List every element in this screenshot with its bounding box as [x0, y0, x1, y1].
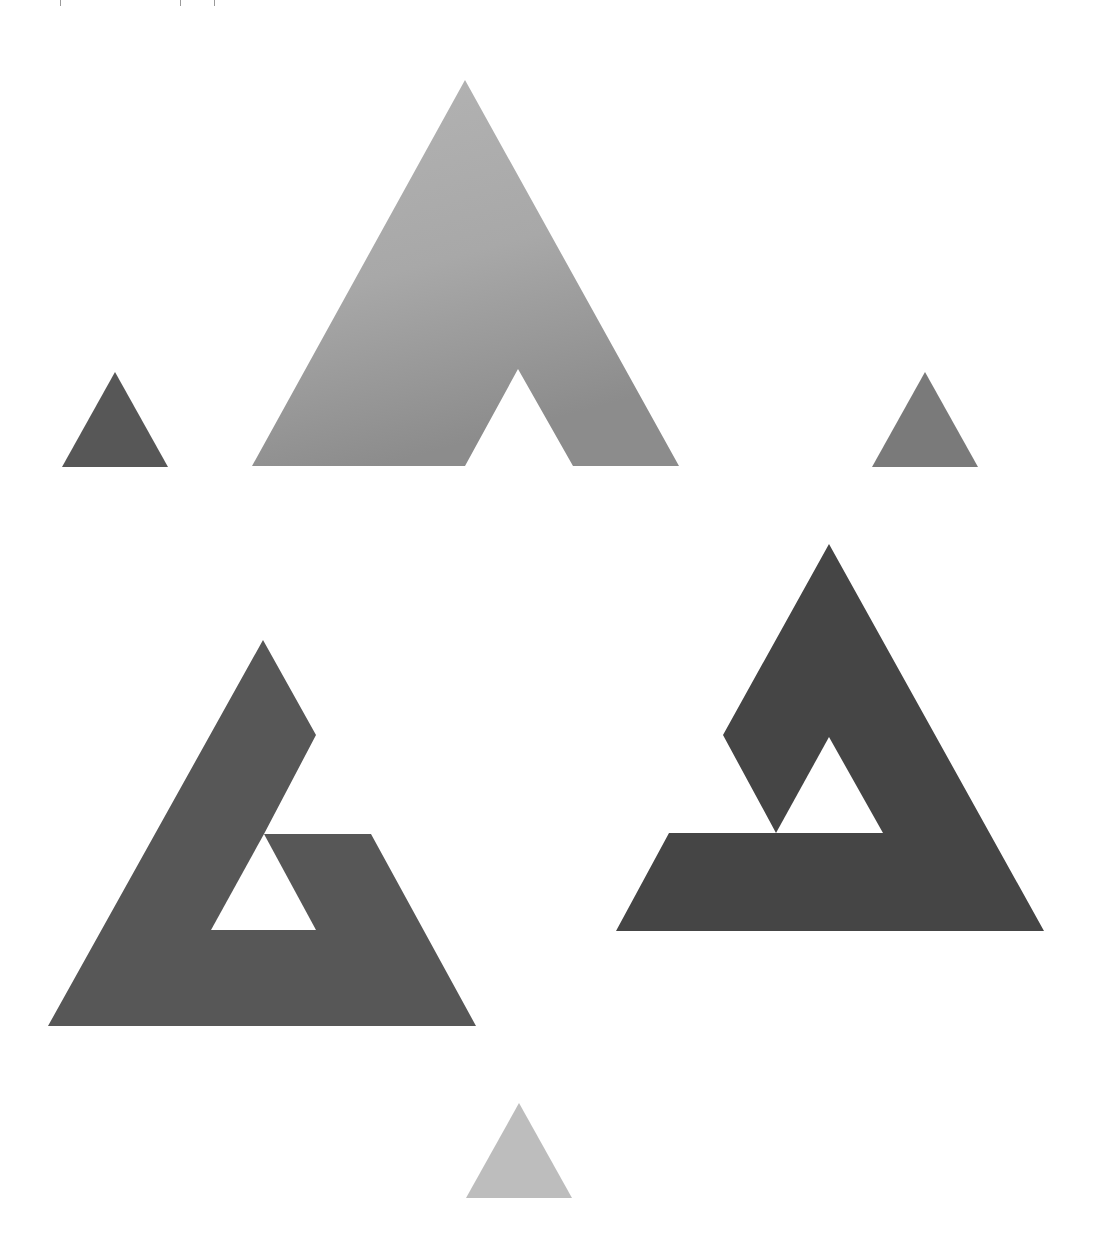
- bottom-right-shape-group: [616, 544, 1044, 931]
- small-bottom-triangle: [466, 1103, 572, 1198]
- figure-canvas: [0, 0, 1099, 1257]
- bottom-left-shape-group: [48, 640, 476, 1026]
- bottom-right-notched-triangle: [616, 544, 1044, 931]
- small-left-triangle: [62, 372, 168, 467]
- small-right-triangle: [872, 372, 978, 467]
- top-notched-triangle: [252, 80, 679, 466]
- bottom-left-notched-triangle: [48, 640, 476, 1026]
